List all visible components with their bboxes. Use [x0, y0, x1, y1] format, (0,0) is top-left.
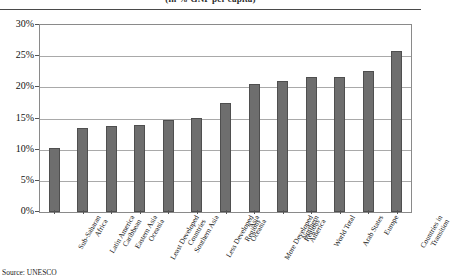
x-axis-tick-mark	[83, 210, 84, 214]
bar-cell	[240, 25, 269, 212]
x-axis-label-line: World Total	[333, 214, 357, 248]
bar[interactable]	[49, 148, 60, 212]
y-axis-tick-label: 0%	[0, 206, 34, 216]
bar-cell	[154, 25, 183, 212]
x-axis-tick-label: Europe	[383, 214, 400, 236]
bar[interactable]	[134, 125, 145, 212]
y-axis-tick-mark	[35, 24, 39, 25]
y-axis-tick-mark	[35, 86, 39, 87]
x-axis-tick-mark	[111, 210, 112, 214]
bar-cell	[354, 25, 383, 212]
x-axis-tick-label: Sub-SaharanAfrica	[77, 214, 109, 254]
bar-cell	[325, 25, 354, 212]
y-axis-tick-mark	[35, 118, 39, 119]
chart-title: (in % GNP per capita)	[0, 0, 421, 4]
y-axis-tick-mark	[35, 180, 39, 181]
x-axis-tick-mark	[54, 210, 55, 214]
x-axis-tick-mark	[197, 210, 198, 214]
bar[interactable]	[106, 126, 117, 212]
bar-cell	[268, 25, 297, 212]
bar-cell	[382, 25, 411, 212]
bar[interactable]	[277, 81, 288, 212]
x-axis-tick-mark	[397, 210, 398, 214]
bar-series	[40, 25, 411, 212]
bar[interactable]	[334, 77, 345, 212]
y-axis-tick-label: 10%	[0, 144, 34, 154]
x-axis-tick-mark	[168, 210, 169, 214]
x-axis-tick-mark	[140, 210, 141, 214]
source-note: Source: UNESCO	[2, 268, 57, 277]
bar-cell	[126, 25, 155, 212]
y-axis-tick-mark	[35, 149, 39, 150]
x-axis-labels: Sub-SaharanAfricaLatin AmericaCaribbeanE…	[40, 214, 411, 276]
x-axis-tick-mark	[226, 210, 227, 214]
bar-cell	[183, 25, 212, 212]
bar[interactable]	[163, 120, 174, 212]
bar[interactable]	[77, 128, 88, 212]
bar-cell	[211, 25, 240, 212]
x-axis-tick-mark	[254, 210, 255, 214]
y-axis-tick-label: 5%	[0, 175, 34, 185]
x-axis-tick-mark	[368, 210, 369, 214]
bar[interactable]	[306, 77, 317, 212]
bar[interactable]	[391, 51, 402, 212]
x-axis-tick-label: World Total	[333, 214, 357, 248]
bar[interactable]	[220, 103, 231, 212]
x-axis-label-line: Europe	[383, 214, 400, 236]
bar-cell	[40, 25, 69, 212]
y-axis-tick-label: 25%	[0, 50, 34, 60]
x-axis-tick-mark	[283, 210, 284, 214]
x-axis-label-line: Arab States	[361, 214, 385, 247]
bar[interactable]	[191, 118, 202, 212]
bar-cell	[297, 25, 326, 212]
x-axis-tick-mark	[340, 210, 341, 214]
title-divider-rule	[0, 9, 421, 10]
y-axis-tick-label: 15%	[0, 113, 34, 123]
y-axis-tick-label: 30%	[0, 19, 34, 29]
x-axis-tick-label: Countries inTransition	[419, 214, 450, 253]
y-axis-tick-mark	[35, 211, 39, 212]
bar[interactable]	[249, 84, 260, 212]
y-axis-tick-mark	[35, 55, 39, 56]
x-axis-tick-label: Arab States	[361, 214, 385, 247]
y-axis-tick-label: 20%	[0, 81, 34, 91]
x-axis-tick-mark	[311, 210, 312, 214]
bar[interactable]	[363, 71, 374, 212]
bar-cell	[69, 25, 98, 212]
bar-cell	[97, 25, 126, 212]
